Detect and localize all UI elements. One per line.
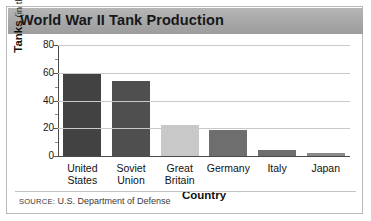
x-tick-label: UnitedStates <box>58 163 107 186</box>
y-axis-title-unit: (in thousands) <box>13 0 24 17</box>
y-axis-title: Tanks (in thousands) <box>12 0 26 53</box>
y-tick-label: 40 <box>30 95 54 106</box>
y-minor-tick-mark <box>55 142 58 143</box>
plot-area: Tanks (in thousands) 020406080 UnitedSta… <box>14 39 357 181</box>
x-tick-label: Japan <box>301 163 350 186</box>
x-tick-label: Italy <box>253 163 302 186</box>
x-axis-tick-labels: UnitedStatesSovietUnionGreatBritainGerma… <box>58 163 350 186</box>
y-tick-label: 20 <box>30 122 54 133</box>
bar[interactable] <box>258 150 296 156</box>
gridline <box>58 101 350 102</box>
x-tick-label-line: Soviet <box>107 163 156 175</box>
x-tick-label: GreatBritain <box>155 163 204 186</box>
x-tick-label-line: Union <box>107 175 156 187</box>
source-note: SOURCE: U.S. Department of Defense <box>19 196 171 206</box>
y-minor-tick-mark <box>55 59 58 60</box>
x-tick-label-line: Italy <box>253 163 302 175</box>
y-axis-tick-labels: 020406080 <box>28 39 54 157</box>
bar[interactable] <box>63 73 101 156</box>
chart-title-band: World War II Tank Production <box>8 8 363 34</box>
gridline <box>58 73 350 74</box>
chart-title: World War II Tank Production <box>20 12 224 28</box>
source-prefix: SOURCE: <box>19 197 55 206</box>
bar[interactable] <box>209 130 247 156</box>
gridline <box>58 128 350 129</box>
y-minor-tick-mark <box>55 114 58 115</box>
y-tick-mark <box>53 45 58 46</box>
y-axis-title-main: Tanks <box>12 20 24 52</box>
axes <box>58 45 350 157</box>
x-tick-label: Germany <box>204 163 253 186</box>
y-tick-mark <box>53 101 58 102</box>
x-tick-label-line: Britain <box>155 175 204 187</box>
bar[interactable] <box>307 153 345 156</box>
gridline <box>58 45 350 46</box>
y-tick-mark <box>53 73 58 74</box>
source-text: U.S. Department of Defense <box>58 196 171 206</box>
x-tick-label-line: States <box>58 175 107 187</box>
y-tick-label: 0 <box>30 150 54 161</box>
bar[interactable] <box>112 81 150 156</box>
y-minor-tick-mark <box>55 87 58 88</box>
x-tick-label-line: Great <box>155 163 204 175</box>
source-divider <box>15 191 356 192</box>
x-tick-label: SovietUnion <box>107 163 156 186</box>
x-tick-label-line: United <box>58 163 107 175</box>
chart-figure: World War II Tank Production Tanks (in t… <box>6 6 363 214</box>
x-axis-line <box>58 156 350 157</box>
x-tick-label-line: Germany <box>204 163 253 175</box>
x-tick-label-line: Japan <box>301 163 350 175</box>
bar[interactable] <box>161 125 199 156</box>
y-tick-label: 80 <box>30 39 54 50</box>
y-tick-mark <box>53 128 58 129</box>
y-tick-label: 60 <box>30 67 54 78</box>
y-tick-mark <box>53 156 58 157</box>
